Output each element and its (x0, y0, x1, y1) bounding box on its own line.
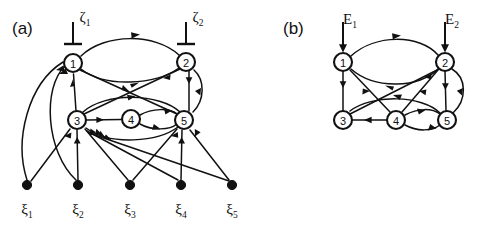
xi4-dot (176, 180, 185, 189)
edge-5-to-2-arrowhead (195, 88, 201, 96)
node-a-2-label: 2 (183, 57, 189, 69)
edge-b-2-to-5 (445, 71, 446, 111)
node-a-1[interactable]: 1 (64, 54, 82, 72)
node-a-2[interactable]: 2 (177, 53, 195, 71)
zeta2-label: ζ2 (193, 9, 204, 28)
xi5-label: ξ5 (226, 201, 238, 220)
edge-xi5-to-3 (89, 133, 229, 181)
source-xi4: ξ4 (175, 180, 187, 220)
E1-label: E1 (343, 11, 357, 30)
edge-3-to-4-arrowhead (96, 117, 104, 123)
figure-root: (a) ζ1 ζ2 (0, 0, 481, 229)
node-a-3-label: 3 (74, 115, 80, 127)
input-zeta2: ζ2 (177, 9, 204, 44)
node-a-4-label: 4 (128, 114, 134, 126)
xi1-dot (22, 180, 31, 189)
input-E2: E2 (441, 11, 459, 53)
node-a-1-label: 1 (70, 58, 76, 70)
input-zeta1: ζ1 (64, 9, 91, 44)
network-diagram-svg: (a) ζ1 ζ2 (0, 0, 481, 229)
node-a-4[interactable]: 4 (122, 110, 140, 128)
xi2-label: ξ2 (72, 201, 84, 220)
edge-xi2-to-3-arrowhead (74, 137, 81, 144)
edge-2-to-1-upper (81, 39, 179, 56)
edge-xi1-to-3-arrowhead (64, 133, 71, 139)
panel-a: (a) ζ1 ζ2 (12, 9, 238, 220)
zeta1-label: ζ1 (80, 9, 91, 28)
node-b-5[interactable]: 5 (438, 111, 456, 129)
edge-3-to-1 (74, 74, 77, 111)
E2-label: E2 (445, 11, 459, 30)
edge-2-to-1-arrowhead (131, 32, 140, 38)
source-xi5: ξ5 (226, 180, 238, 220)
edge-b-1-to-3-arrowhead (340, 81, 347, 88)
source-xi2: ξ2 (72, 180, 84, 220)
edge-3-to-4 (87, 120, 121, 121)
edge-xi4-to-5-arrowhead (178, 137, 185, 144)
node-a-5-label: 5 (181, 115, 187, 127)
edge-1-to-2-lower (81, 68, 179, 82)
edge-3-to-2-diagonal (84, 69, 180, 114)
xi4-label: ξ4 (175, 201, 187, 220)
panel-a-label: (a) (12, 19, 33, 38)
edge-xi1-to-1 (22, 62, 63, 180)
node-b-4-label: 4 (393, 115, 399, 127)
E1-arrowhead (339, 44, 347, 52)
source-xi1: ξ1 (21, 180, 33, 220)
xi3-label: ξ3 (124, 201, 136, 220)
edge-b-2-to-1-arrowhead (385, 85, 394, 90)
edge-xi1-to-3 (31, 129, 70, 181)
edge-xi5-to-5 (190, 130, 229, 180)
edge-b-2-to-5-arrowhead (442, 83, 449, 90)
panel-b-label: (b) (283, 19, 304, 38)
node-b-1-label: 1 (340, 57, 346, 69)
edge-1-to-5-arrowhead (122, 85, 130, 92)
source-xi3: ξ3 (124, 180, 136, 220)
node-b-1[interactable]: 1 (334, 53, 352, 71)
node-b-2-label: 2 (442, 57, 448, 69)
edge-1-to-2-arrowhead (130, 82, 139, 87)
node-b-5-label: 5 (444, 115, 450, 127)
edge-b-5-to-2-arrowhead (457, 88, 463, 96)
edge-2-to-5-arrowhead (186, 77, 193, 84)
node-a-3[interactable]: 3 (68, 111, 86, 129)
edge-b-4-to-3-arrowhead (364, 117, 372, 123)
node-b-2[interactable]: 2 (436, 53, 454, 71)
E2-arrowhead (441, 44, 449, 52)
xi5-dot (227, 180, 236, 189)
node-b-4[interactable]: 4 (387, 111, 405, 129)
edge-b-1-to-2-upper (351, 39, 438, 56)
xi3-dot (125, 180, 134, 189)
input-E1: E1 (339, 11, 357, 53)
node-b-3[interactable]: 3 (334, 111, 352, 129)
edge-xi5-to-5-arrowhead (195, 129, 201, 136)
node-b-3-label: 3 (340, 115, 346, 127)
xi1-label: ξ1 (21, 201, 33, 220)
xi2-dot (73, 180, 82, 189)
edge-xi4-to-3 (87, 131, 178, 180)
node-a-5[interactable]: 5 (175, 111, 193, 129)
panel-b: (b) E1 E2 (283, 11, 463, 130)
